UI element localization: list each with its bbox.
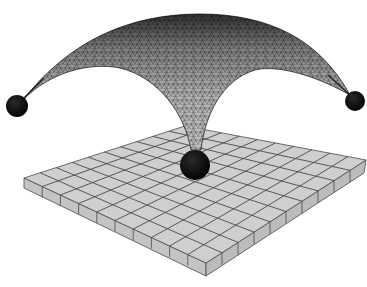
center-support-ball [180,150,210,180]
left-tether [21,78,44,101]
left-support-ball [6,95,28,117]
dome-shading [23,14,350,150]
mesh-illustration [0,0,367,287]
mesh-dome [21,14,351,150]
figure-canvas [0,0,367,287]
right-support-ball [345,91,365,111]
